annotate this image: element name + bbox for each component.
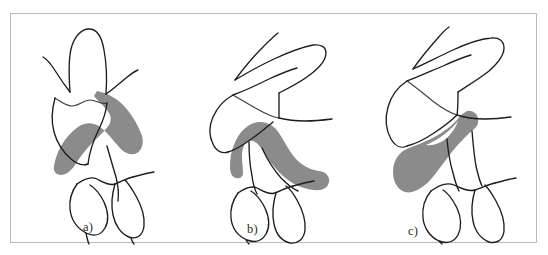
lower-tooth-occlusal-b (238, 186, 293, 194)
panel-a-label: a) (83, 220, 93, 235)
upper-tooth-cej-c (407, 81, 457, 115)
lower-tooth-root-distal-a (112, 180, 144, 238)
upper-tooth-crown-a (69, 29, 107, 94)
lower-tooth-occlusal-a (77, 177, 133, 185)
lower-tooth-right-wall-c (472, 131, 482, 186)
upper-tooth-crown-upper-b (235, 45, 326, 93)
lower-tooth-occlusal-c (431, 183, 495, 191)
upper-tooth-crown-lower-b (233, 68, 297, 95)
lower-tooth-apex-trail2-a (131, 238, 134, 244)
upper-tooth-gingival-line-b (279, 118, 332, 121)
upper-tooth-distal-root-a (106, 70, 138, 94)
shade-region-c (393, 111, 478, 193)
panel-b-label: b) (247, 222, 258, 237)
panel-c-label: c) (408, 224, 418, 239)
lower-tooth-root-mesial-c (423, 190, 461, 242)
upper-tooth-left-contour-c (386, 81, 407, 147)
lower-tooth-distal-edge-a (133, 172, 154, 177)
shade-region-b (230, 122, 329, 190)
upper-tooth-distal-root-b (235, 33, 278, 80)
lower-tooth-distal-edge-c (495, 178, 516, 183)
upper-tooth-cej-b (233, 95, 279, 118)
panel-b: b) (187, 14, 363, 244)
figure-frame: a) (10, 13, 537, 243)
lower-tooth-left-wall-b (249, 142, 257, 194)
shade-region-a (54, 91, 143, 175)
upper-tooth-mesial-root-a (43, 57, 70, 92)
upper-tooth-mesial-root-c (413, 27, 449, 69)
panel-c: c) (363, 14, 538, 244)
panel-b-drawing (187, 14, 363, 244)
panel-a: a) (11, 14, 187, 244)
upper-tooth-crown-upper-c (413, 38, 504, 92)
upper-tooth-tipped-left-b (210, 95, 233, 153)
upper-tooth-cervical-right-c (457, 92, 458, 115)
lower-tooth-root-distal-c (472, 185, 504, 243)
lower-tooth-root-distal-b (273, 186, 305, 243)
figure-root: a) (0, 0, 548, 255)
panel-c-drawing (363, 14, 538, 244)
panel-a-drawing (11, 14, 187, 244)
